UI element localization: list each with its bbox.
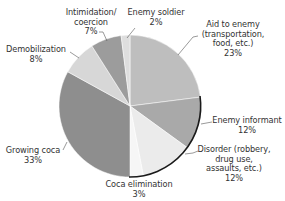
label-enemy-soldier: Enemy soldier 2%: [121, 8, 191, 27]
label-enemy-informant: Enemy informant 12%: [211, 116, 283, 135]
pie-slice-aid-to-enemy-transportation-food-etc: [130, 35, 200, 106]
label-coca-elimination: Coca elimination 3%: [98, 180, 180, 199]
leader-aid-to-enemy: [178, 36, 198, 55]
label-disorder: Disorder (robbery, drug use, assaults, e…: [196, 145, 272, 183]
label-intimidation-coercion: Intimidation/ coercion 7%: [62, 8, 120, 37]
leader-growing-coca: [63, 142, 67, 150]
label-aid-to-enemy: Aid to enemy (transportation, food, etc.…: [198, 20, 268, 58]
label-demobilization: Demobilization 8%: [4, 45, 68, 64]
label-growing-coca: Growing coca 33%: [4, 146, 62, 165]
leader-demobilization: [70, 52, 79, 58]
